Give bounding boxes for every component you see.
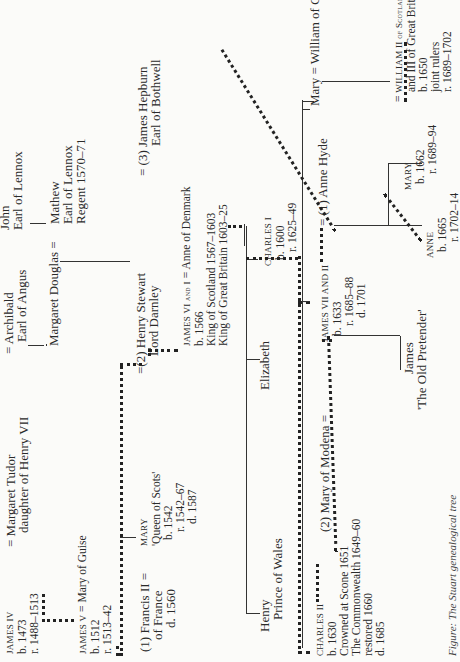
person-james-old-pretender: James 'The Old Pretender' bbox=[402, 309, 428, 410]
royal-descent-dotted bbox=[320, 228, 326, 262]
descent-line bbox=[120, 537, 136, 538]
sibling-bar bbox=[302, 248, 303, 648]
person-james-iv: JAMES IV b. 1473 r. 1488–1513 bbox=[4, 593, 40, 654]
person-francis-ii: (1) Francis II = of France d. 1560 bbox=[138, 573, 177, 652]
royal-descent-dotted bbox=[298, 648, 310, 654]
person-james-hepburn-bothwell: = (3) James Hepburn Earl of Bothwell bbox=[136, 59, 162, 176]
person-james-v: JAMES V = Mary of Guise b. 1512 r. 1513–… bbox=[76, 535, 113, 654]
descent-line bbox=[322, 81, 390, 82]
person-mary-wife-of-william: Mary = William of Orange bbox=[308, 0, 321, 106]
descent-line bbox=[46, 344, 47, 346]
person-william-of-orange: = WILLIAM II of Scotland and III of Grea… bbox=[392, 0, 453, 102]
royal-descent-dotted bbox=[228, 222, 242, 228]
descent-line bbox=[334, 225, 388, 226]
royal-descent-dotted bbox=[42, 594, 48, 622]
person-mary-ii: MARY b. 1662 r. 1689–94 bbox=[402, 125, 438, 190]
person-james-vi-and-i: JAMES VI and I = Anne of Denmark b. 1566… bbox=[180, 187, 229, 346]
person-mary-of-modena: (2) Mary of Modena = bbox=[318, 415, 331, 532]
descent-line bbox=[302, 109, 310, 110]
person-elizabeth: Elizabeth bbox=[258, 341, 271, 390]
genealogy-chart: JAMES IV b. 1473 r. 1488–1513 = Margaret… bbox=[0, 0, 460, 662]
person-margaret-tudor: = Margaret Tudor daughter of Henry VII bbox=[4, 417, 30, 547]
figure-caption: Figure: The Stuart genealogical tree bbox=[446, 495, 458, 656]
descent-line bbox=[60, 261, 130, 262]
person-john-lennox: John Earl of Lennox bbox=[0, 151, 24, 230]
royal-descent-dotted bbox=[316, 564, 322, 602]
person-henry-prince-of-wales: Henry Prince of Wales bbox=[258, 538, 284, 632]
sibling-bar bbox=[246, 226, 247, 614]
descent-line bbox=[388, 164, 389, 226]
person-charles-ii: CHARLES II b. 1630 Crowned at Scone 1651… bbox=[314, 519, 386, 656]
person-margaret-douglas: Margaret Douglas = bbox=[47, 241, 60, 346]
descent-line bbox=[388, 225, 422, 226]
royal-descent-dotted bbox=[246, 254, 298, 260]
descent-line bbox=[28, 345, 44, 346]
royal-descent-dotted bbox=[120, 366, 126, 656]
person-mathew: Mathew Earl of Lennox Regent 1570–71 bbox=[48, 138, 87, 224]
person-mary-queen-of-scots: MARY 'Queen of Scots' b. 1542 r. 1542–67… bbox=[138, 472, 198, 546]
royal-descent-dotted bbox=[148, 348, 154, 356]
person-archibald: = Archibald Earl of Angus bbox=[2, 270, 28, 354]
descent-line bbox=[334, 335, 400, 336]
person-henry-stewart-darnley: =(2) Henry Stewart Lord Darnley bbox=[134, 273, 160, 374]
descent-line bbox=[302, 301, 310, 302]
descent-line bbox=[30, 223, 46, 224]
person-james-vii-and-ii: JAMES VII AND II b. 1633 r. 1685–88 d. 1… bbox=[318, 265, 367, 342]
person-anne: ANNE b. 1665 r. 1702–14 bbox=[424, 193, 460, 258]
